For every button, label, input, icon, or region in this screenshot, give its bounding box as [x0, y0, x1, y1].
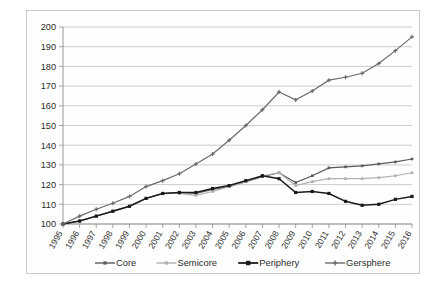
legend-marker [165, 261, 168, 264]
series-marker-semicore [394, 174, 397, 177]
x-axis-tick-label: 2015 [379, 229, 397, 251]
x-axis-tick-label: 2006 [229, 229, 247, 251]
series-marker-semicore [278, 171, 281, 174]
series-marker-periphery [327, 192, 330, 195]
series-marker-periphery [128, 205, 131, 208]
legend-item-core[interactable]: Core [95, 257, 136, 268]
series-marker-periphery [361, 204, 364, 207]
series-marker-gersphere [78, 214, 82, 218]
chart-figure: 1001101201301401501601701801902001995199… [26, 10, 420, 274]
legend-label: Gersphere [346, 257, 390, 268]
y-axis-tick-label: 130 [41, 160, 56, 170]
legend-marker [103, 261, 106, 264]
legend-label: Semicore [177, 257, 217, 268]
series-marker-periphery [244, 179, 247, 182]
series-marker-semicore [411, 171, 414, 174]
series-marker-periphery [228, 184, 231, 187]
series-marker-semicore [361, 177, 364, 180]
x-axis-tick-label: 2000 [130, 229, 148, 251]
x-axis-tick-label: 2009 [279, 229, 297, 251]
x-axis-tick-label: 2007 [246, 229, 264, 251]
series-marker-semicore [294, 184, 297, 187]
y-axis-tick-label: 190 [41, 42, 56, 52]
x-axis-tick-label: 1997 [80, 229, 98, 251]
x-axis-tick-label: 2003 [179, 229, 197, 251]
x-axis-tick-label: 2001 [146, 229, 164, 251]
series-marker-periphery [78, 219, 81, 222]
legend-marker [246, 261, 250, 265]
series-marker-periphery [344, 200, 347, 203]
series-marker-periphery [377, 203, 380, 206]
x-axis-tick-label: 1998 [96, 229, 114, 251]
legend-item-periphery[interactable]: Periphery [238, 257, 299, 268]
y-axis-tick-label: 140 [41, 141, 56, 151]
series-marker-periphery [410, 195, 413, 198]
series-marker-core [294, 181, 297, 184]
legend-item-gersphere[interactable]: Gersphere [325, 257, 390, 268]
x-axis-tick-label: 2008 [263, 229, 281, 251]
series-marker-core [361, 165, 364, 168]
series-marker-periphery [277, 177, 280, 180]
series-marker-semicore [377, 176, 380, 179]
series-marker-semicore [328, 177, 331, 180]
series-marker-core [377, 163, 380, 166]
series-marker-core [394, 161, 397, 164]
x-axis-tick-label: 2005 [213, 229, 231, 251]
x-axis-tick-label: 2014 [362, 229, 380, 251]
series-marker-periphery [194, 191, 197, 194]
line-chart-svg: 1001101201301401501601701801902001995199… [27, 11, 421, 275]
series-marker-periphery [311, 190, 314, 193]
series-marker-semicore [311, 180, 314, 183]
series-marker-gersphere [161, 179, 165, 183]
x-axis-tick-label: 2012 [329, 229, 347, 251]
x-axis-tick-label: 2013 [346, 229, 364, 251]
y-axis-tick-label: 160 [41, 101, 56, 111]
series-marker-core [311, 174, 314, 177]
series-marker-core [328, 167, 331, 170]
y-axis-tick-label: 120 [41, 180, 56, 190]
series-line-semicore [63, 173, 412, 224]
series-line-gersphere [63, 37, 412, 224]
chart-plot-area: 1001101201301401501601701801902001995199… [27, 11, 421, 275]
x-axis-tick-label: 1995 [47, 229, 65, 251]
series-marker-periphery [394, 198, 397, 201]
series-marker-core [411, 158, 414, 161]
y-axis-tick-label: 150 [41, 121, 56, 131]
series-line-core [63, 159, 412, 224]
legend-item-semicore[interactable]: Semicore [156, 257, 217, 268]
legend-label: Core [116, 257, 136, 268]
series-marker-core [344, 166, 347, 169]
y-axis-tick-label: 180 [41, 62, 56, 72]
y-axis-tick-label: 170 [41, 81, 56, 91]
series-marker-periphery [161, 192, 164, 195]
x-axis-tick-label: 1996 [63, 229, 81, 251]
series-marker-periphery [211, 187, 214, 190]
x-axis-tick-label: 1999 [113, 229, 131, 251]
y-axis-tick-label: 200 [41, 22, 56, 32]
x-axis-tick-label: 2010 [296, 229, 314, 251]
legend-label: Periphery [259, 257, 299, 268]
series-marker-periphery [111, 210, 114, 213]
series-marker-gersphere [344, 75, 348, 79]
series-marker-periphery [144, 197, 147, 200]
series-marker-gersphere [94, 207, 98, 211]
series-marker-semicore [211, 190, 214, 193]
y-axis-tick-label: 110 [41, 200, 56, 210]
x-axis-tick-label: 2004 [196, 229, 214, 251]
x-axis-tick-label: 2011 [313, 229, 331, 250]
series-marker-semicore [195, 194, 198, 197]
series-marker-semicore [344, 177, 347, 180]
x-axis-tick-label: 2016 [396, 229, 414, 251]
series-marker-gersphere [111, 201, 115, 205]
x-axis-tick-label: 2002 [163, 229, 181, 251]
series-marker-periphery [294, 191, 297, 194]
series-marker-periphery [178, 191, 181, 194]
y-axis-tick-label: 100 [41, 219, 56, 229]
series-line-periphery [63, 176, 412, 224]
series-marker-periphery [95, 215, 98, 218]
series-marker-periphery [261, 174, 264, 177]
